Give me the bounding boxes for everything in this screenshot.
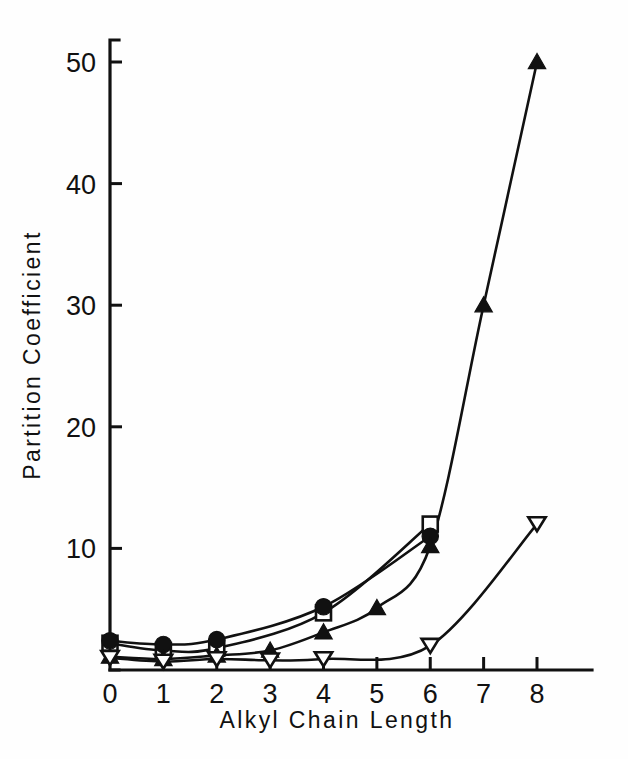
x-tick-label-7: 7 [476,679,491,709]
series-line-filled-circle [110,536,430,644]
x-tick-label-1: 1 [156,679,171,709]
marker-filled-circle-x4 [315,599,331,615]
series-line-filled-triangle [110,62,537,659]
y-tick-label-50: 50 [66,48,96,78]
marker-filled-circle-x2 [209,631,225,647]
x-tick-label-5: 5 [369,679,384,709]
y-tick-label-30: 30 [66,291,96,321]
series-line-open-inverted-triangle [110,524,537,661]
y-axis-line [110,40,119,670]
x-tick-label-2: 2 [209,679,224,709]
y-tick-label-20: 20 [66,413,96,443]
marker-filled-triangle-x5 [368,599,385,614]
partition-coefficient-line-chart: 1020304050 012345678 Alkyl Chain Length … [0,0,628,759]
y-tick-label-40: 40 [66,170,96,200]
series-markers-group [101,54,545,669]
y-tick-label-10: 10 [66,534,96,564]
y-axis-ticks [110,62,122,548]
marker-open-inverted-triangle-x6 [422,639,439,653]
y-axis-title: Partition Coefficient [19,230,45,479]
x-tick-label-6: 6 [423,679,438,709]
x-axis-tick-labels: 012345678 [102,679,544,709]
axes-group [110,40,592,670]
x-tick-label-3: 3 [263,679,278,709]
x-tick-label-4: 4 [316,679,331,709]
y-axis-tick-labels: 1020304050 [66,48,96,564]
marker-filled-circle-x0 [102,633,118,649]
marker-filled-triangle-x7 [475,297,492,312]
x-tick-label-8: 8 [529,679,544,709]
series-line-open-square [110,524,430,652]
marker-open-inverted-triangle-x8 [528,517,545,531]
marker-filled-triangle-x8 [528,54,545,69]
chart-figure: 1020304050 012345678 Alkyl Chain Length … [0,0,628,759]
x-tick-label-0: 0 [102,679,117,709]
series-lines-group [110,62,537,662]
x-axis-title: Alkyl Chain Length [220,707,455,733]
